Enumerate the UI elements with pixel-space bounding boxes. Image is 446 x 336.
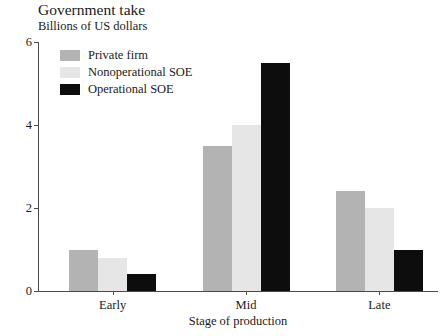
y-axis-tick-label: 6 [12, 36, 32, 48]
bar [127, 274, 156, 291]
y-axis-tick [34, 42, 38, 43]
x-axis-tick [246, 291, 247, 295]
legend-swatch-icon [60, 84, 80, 95]
x-axis-line [38, 291, 438, 292]
chart-figure: Government take Billions of US dollars 0… [0, 0, 446, 336]
y-axis-tick [34, 291, 38, 292]
legend-item-label: Private firm [88, 47, 148, 63]
legend-item-label: Nonoperational SOE [88, 64, 193, 80]
bar [203, 146, 232, 291]
legend-swatch-icon [60, 67, 80, 78]
chart-subtitle: Billions of US dollars [38, 19, 147, 34]
x-axis-tick-label: Mid [236, 298, 257, 312]
y-axis-tick [34, 125, 38, 126]
bar [365, 208, 394, 291]
x-axis-tick-label: Early [99, 298, 126, 312]
y-axis-tick [34, 208, 38, 209]
x-axis-tick [113, 291, 114, 295]
bar [232, 125, 261, 291]
y-axis-tick-label: 0 [12, 285, 32, 297]
y-axis-tick-label: 4 [12, 119, 32, 131]
y-axis-line [38, 42, 39, 291]
bar [69, 250, 98, 292]
bar [261, 63, 290, 291]
x-axis-tick [379, 291, 380, 295]
bar [336, 191, 365, 291]
chart-title: Government take [38, 1, 145, 18]
bar [394, 250, 423, 292]
bar [98, 258, 127, 291]
legend-item-label: Operational SOE [88, 81, 174, 97]
legend-swatch-icon [60, 50, 80, 61]
x-axis-title: Stage of production [38, 314, 438, 329]
y-axis-tick-label: 2 [12, 202, 32, 214]
x-axis-tick-label: Late [368, 298, 390, 312]
